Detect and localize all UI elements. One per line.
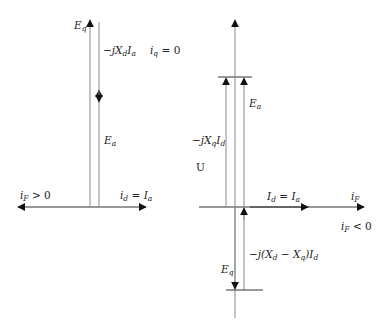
right-u-label: U xyxy=(196,162,205,173)
left-iq-zero-label: iq = 0 xyxy=(150,45,180,58)
right-jxq-id-label: −jXqId xyxy=(192,135,225,148)
left-ea-label: Ea xyxy=(104,135,116,148)
left-eq-label: Eq xyxy=(74,20,86,33)
left-id-ia-label: id = Ia xyxy=(120,190,152,203)
right-jxd-xq-id-label: −j(Xd − Xq)Id xyxy=(249,249,318,262)
left-jxd-ia-label: −jXdIa xyxy=(103,45,136,58)
right-if-label: iF xyxy=(351,191,360,204)
phasor-diagram xyxy=(0,0,382,335)
left-if-pos-label: iF > 0 xyxy=(20,190,51,203)
right-if-neg-label: iF < 0 xyxy=(341,221,372,234)
right-ea-label: Ea xyxy=(249,98,261,111)
right-eq-label: Eq xyxy=(221,264,233,277)
right-id-ia-label: Id = Ia xyxy=(267,191,300,204)
